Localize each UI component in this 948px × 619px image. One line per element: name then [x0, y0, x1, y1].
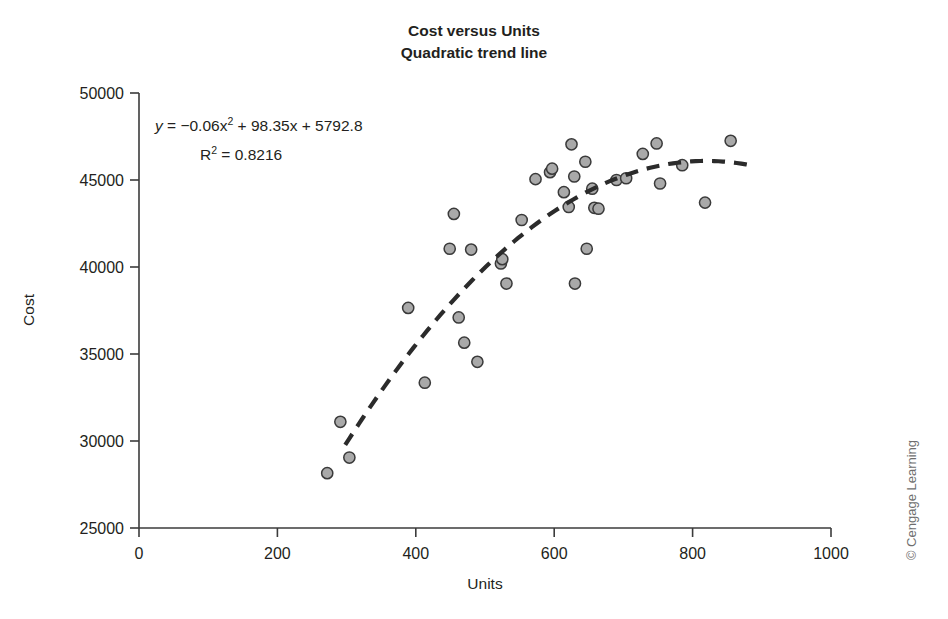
- scatter-point: [581, 243, 592, 254]
- scatter-point: [344, 452, 355, 463]
- scatter-point: [566, 139, 577, 150]
- chart-subtitle: Quadratic trend line: [401, 44, 548, 61]
- scatter-point: [654, 178, 665, 189]
- scatter-point: [580, 156, 591, 167]
- scatter-point: [466, 244, 477, 255]
- scatter-point: [593, 203, 604, 214]
- scatter-point: [403, 302, 414, 313]
- x-tick-label: 0: [135, 545, 144, 562]
- scatter-point: [699, 197, 710, 208]
- cost-versus-units-scatter-chart: Cost versus Units Quadratic trend line y…: [0, 0, 948, 619]
- scatter-point: [322, 468, 333, 479]
- scatter-point: [444, 243, 455, 254]
- scatter-point: [651, 138, 662, 149]
- chart-background: [0, 0, 948, 619]
- x-tick-label: 800: [679, 545, 706, 562]
- r-squared-label: R: [200, 146, 211, 163]
- y-tick-label: 40000: [80, 259, 125, 276]
- figure-container: Cost versus Units Quadratic trend line y…: [0, 0, 948, 619]
- x-tick-label: 600: [541, 545, 568, 562]
- scatter-point: [459, 337, 470, 348]
- equation-tail: + 98.35x + 5792.8: [233, 117, 362, 134]
- scatter-point: [558, 187, 569, 198]
- y-tick-label: 35000: [80, 346, 125, 363]
- scatter-point: [547, 163, 558, 174]
- x-tick-label: 400: [402, 545, 429, 562]
- scatter-point: [530, 174, 541, 185]
- scatter-point: [472, 356, 483, 367]
- scatter-point: [448, 208, 459, 219]
- scatter-point: [501, 278, 512, 289]
- y-tick-label: 45000: [80, 172, 125, 189]
- scatter-point: [516, 214, 527, 225]
- scatter-point: [335, 416, 346, 427]
- scatter-point: [419, 377, 430, 388]
- y-tick-label: 50000: [80, 85, 125, 102]
- scatter-point: [725, 135, 736, 146]
- copyright-credit: © Cengage Learning: [904, 440, 919, 560]
- scatter-point: [569, 171, 580, 182]
- r-squared-value: = 0.8216: [217, 146, 282, 163]
- trendline-equation: y = −0.06x2 + 98.35x + 5792.8: [154, 115, 363, 134]
- scatter-point: [569, 278, 580, 289]
- x-axis-title: Units: [467, 575, 503, 592]
- y-tick-label: 25000: [80, 520, 125, 537]
- x-tick-label: 1000: [813, 545, 849, 562]
- y-tick-label: 30000: [80, 433, 125, 450]
- equation-body: = −0.06x: [163, 117, 228, 134]
- scatter-point: [637, 148, 648, 159]
- y-axis-title: Cost: [20, 293, 37, 326]
- scatter-point: [453, 312, 464, 323]
- x-tick-label: 200: [264, 545, 291, 562]
- chart-title: Cost versus Units: [408, 22, 540, 39]
